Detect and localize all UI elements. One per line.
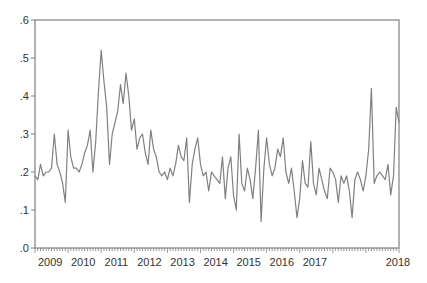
y-tick-label: .6 [20,14,29,26]
y-tick-label: .3 [20,128,29,140]
x-tick-label: 2014 [203,256,227,268]
y-tick-label: .0 [20,242,29,254]
y-tick-label: .2 [20,166,29,178]
x-tick-label: 2015 [236,256,260,268]
x-tick-label: 2010 [71,256,95,268]
x-tick-label: 2013 [170,256,194,268]
data-line [35,50,399,221]
x-tick-label: 2016 [270,256,294,268]
line-chart: .0.1.2.3.4.5.6 2009201020112012201320142… [0,0,427,283]
x-tick-label: 2009 [38,256,62,268]
y-tick-label: .1 [20,204,29,216]
x-tick-label: 2018 [386,256,410,268]
y-tick-label: .5 [20,52,29,64]
x-axis: 2009201020112012201320142015201620172018 [35,248,410,268]
y-tick-label: .4 [20,90,29,102]
x-tick-label: 2012 [137,256,161,268]
x-tick-label: 2011 [105,256,129,268]
y-axis: .0.1.2.3.4.5.6 [20,14,35,254]
x-tick-label: 2017 [303,256,327,268]
